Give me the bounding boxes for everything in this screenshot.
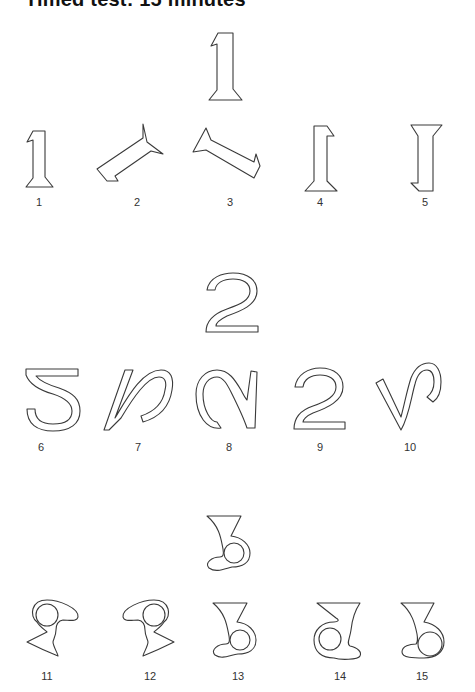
option-label-13: 13 (218, 670, 258, 682)
option-1-icon[interactable] (25, 131, 55, 189)
option-3-icon[interactable] (192, 128, 264, 182)
option-5-icon[interactable] (410, 125, 444, 193)
option-7-icon[interactable] (103, 370, 175, 432)
option-4-icon[interactable] (305, 126, 339, 192)
option-label-10: 10 (390, 441, 430, 453)
option-label-3: 3 (210, 196, 250, 208)
option-9-icon[interactable] (293, 368, 347, 430)
option-12-icon[interactable] (120, 600, 176, 660)
option-14-icon[interactable] (310, 602, 362, 660)
option-label-2: 2 (117, 196, 157, 208)
option-2-icon[interactable] (95, 124, 167, 182)
option-label-12: 12 (130, 670, 170, 682)
test-title: Timed test: 15 minutes (25, 0, 246, 11)
option-13-icon[interactable] (212, 602, 258, 660)
option-label-9: 9 (300, 441, 340, 453)
option-label-6: 6 (21, 441, 61, 453)
option-label-11: 11 (27, 670, 67, 682)
option-label-5: 5 (405, 196, 445, 208)
reference-digit-2-icon (205, 273, 261, 333)
reference-digit-1-icon (208, 33, 244, 103)
option-10-icon[interactable] (375, 362, 443, 432)
option-label-7: 7 (118, 441, 158, 453)
option-15-icon[interactable] (400, 602, 446, 660)
option-label-14: 14 (320, 670, 360, 682)
reference-digit-3-icon (206, 515, 252, 573)
option-label-4: 4 (300, 196, 340, 208)
option-6-icon[interactable] (25, 369, 81, 431)
option-8-icon[interactable] (195, 370, 261, 432)
option-label-15: 15 (402, 670, 442, 682)
option-label-8: 8 (209, 441, 249, 453)
option-11-icon[interactable] (25, 600, 83, 660)
option-label-1: 1 (19, 196, 59, 208)
